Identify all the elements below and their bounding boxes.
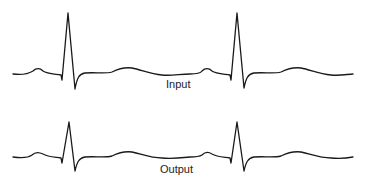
input-label: Input	[166, 78, 190, 90]
ecg-figure	[0, 0, 366, 185]
output-label: Output	[160, 163, 193, 175]
